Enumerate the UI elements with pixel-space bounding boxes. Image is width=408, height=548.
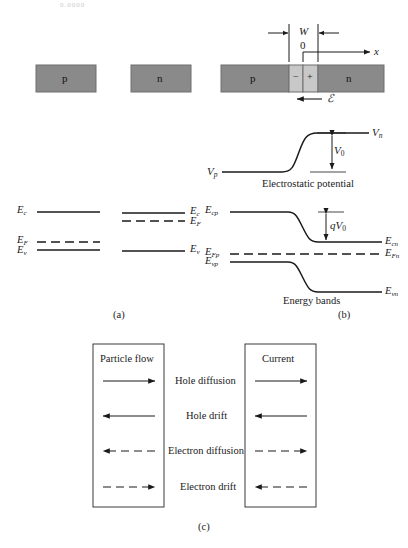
header-current: Current	[262, 353, 294, 364]
panel-b-axis-sketch	[268, 24, 370, 62]
panel-c-arrows	[103, 381, 307, 487]
row-label-electron-drift: Electron drift	[180, 481, 236, 492]
junction-label-n: n	[346, 72, 352, 84]
label-potential-vn: Vn	[372, 127, 382, 140]
block-label-p: p	[62, 72, 68, 84]
caption-energy-bands: Energy bands	[283, 295, 340, 306]
panel-b-potential-curve	[222, 133, 369, 172]
junction-label-p: p	[250, 72, 256, 84]
label-origin-zero: 0	[300, 40, 306, 51]
label-ev-n-side: Ev	[190, 244, 200, 256]
label-electric-field: ℰ	[327, 93, 334, 104]
label-efn: EFn	[385, 248, 399, 260]
label-ecp: Ecp	[205, 205, 218, 217]
label-x-axis: x	[374, 46, 379, 57]
panel-label-c: (c)	[198, 521, 210, 532]
header-particle-flow: Particle flow	[100, 353, 154, 364]
label-qv0-barrier: qV0	[330, 220, 346, 233]
panel-a-band-lines	[37, 212, 185, 251]
caption-electrostatic-potential: Electrostatic potential	[262, 178, 354, 189]
label-ec-p-side: Ec	[17, 205, 27, 217]
panel-label-a: (a)	[113, 309, 125, 320]
label-contact-potential-v0: V0	[334, 145, 344, 158]
panel-a-blocks	[36, 65, 191, 92]
row-label-electron-diffusion: Electron diffusion	[168, 445, 244, 456]
depletion-negative-charge: −	[293, 72, 299, 82]
panel-label-b: (b)	[338, 309, 350, 320]
label-ev-p-side: Ev	[17, 245, 27, 257]
label-evn: Evn	[385, 286, 398, 298]
depletion-positive-charge: +	[307, 72, 313, 82]
label-potential-vp: Vp	[207, 166, 217, 179]
pn-junction-figure: 0.0000	[0, 0, 408, 548]
label-ef-n-side: EF	[190, 216, 201, 228]
row-label-hole-diffusion: Hole diffusion	[175, 375, 236, 386]
panel-b-energy-bands	[230, 212, 382, 292]
row-label-hole-drift: Hole drift	[186, 410, 227, 421]
panel-b-junction-block	[221, 65, 384, 99]
label-depletion-width-w: W	[299, 26, 308, 37]
block-label-n: n	[157, 72, 163, 84]
label-evp: Evp	[205, 256, 218, 268]
